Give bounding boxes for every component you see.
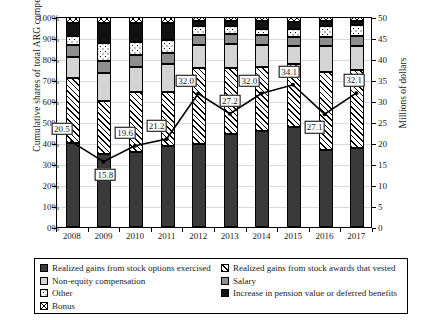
x-axis-tickmark [151, 228, 152, 232]
legend-item-label: Realized gains from stock options exerci… [52, 263, 211, 273]
bar-segment-stock-awards [129, 92, 143, 153]
bar-segment-non-equity [287, 46, 301, 64]
bar-segment-pension [129, 23, 143, 42]
y-axis-left-tickmark [52, 165, 56, 166]
x-axis-tick-2015: 2015 [284, 231, 302, 241]
y-axis-right-tickmark [372, 165, 376, 166]
bar-segment-other [161, 40, 175, 53]
chart-container: Cumulative shares of total ARG compensat… [0, 0, 433, 320]
bar-segment-pension [66, 23, 80, 36]
bar-segment-options [224, 134, 238, 227]
y-axis-right-tickmark [372, 60, 376, 61]
bar-2017 [350, 17, 364, 227]
legend-item-label: Salary [233, 276, 256, 286]
bar-segment-pension [161, 23, 175, 40]
x-axis-tick-2017: 2017 [347, 231, 365, 241]
bar-segment-non-equity [97, 73, 111, 101]
bar-segment-bonus [319, 17, 333, 21]
legend-item-label: Non-equity compensation [52, 276, 145, 286]
y-axis-left-tickmark [52, 144, 56, 145]
chart-legend: Realized gains from stock options exerci… [34, 258, 408, 314]
bar-segment-pension [224, 21, 238, 26]
data-label-2013: 27.2 [219, 95, 240, 108]
x-axis-tickmark [56, 228, 57, 232]
data-label-2011: 21.2 [146, 120, 167, 133]
bar-segment-pension [192, 21, 206, 26]
legend-item: Increase in pension value or deferred be… [221, 287, 397, 300]
bar-segment-bonus [224, 17, 238, 21]
bar-segment-pension [255, 21, 269, 28]
bar-2013 [224, 17, 238, 227]
y-axis-right-tickmark [372, 102, 376, 103]
bar-segment-stock-awards [97, 101, 111, 154]
x-axis-tick-2009: 2009 [94, 231, 112, 241]
bar-2009 [97, 17, 111, 227]
bonus-swatch [40, 302, 48, 310]
bar-2010 [129, 17, 143, 227]
y-axis-right-tickmark [372, 123, 376, 124]
bar-segment-other [287, 29, 301, 37]
bar-segment-other [97, 43, 111, 61]
y-axis-left-tickmark [52, 60, 56, 61]
bar-2012 [192, 17, 206, 227]
x-axis-tickmark [372, 228, 373, 232]
legend-item: Realized gains from stock awards that ve… [221, 262, 397, 275]
y-axis-left-tickmark [52, 207, 56, 208]
bar-segment-non-equity [350, 46, 364, 69]
bar-segment-other [350, 25, 364, 36]
legend-column-left: Realized gains from stock options exerci… [40, 262, 211, 312]
bar-segment-salary [319, 37, 333, 46]
y-axis-right-tick: 15 [378, 160, 408, 170]
bar-segment-stock-awards [319, 72, 333, 151]
y-axis-right-tickmark [372, 207, 376, 208]
other-swatch [40, 289, 48, 297]
bar-segment-options [287, 127, 301, 227]
bar-segment-salary [97, 61, 111, 73]
y-axis-left-tickmark [52, 81, 56, 82]
y-axis-right-tick: 10 [378, 181, 408, 191]
bar-segment-bonus [97, 17, 111, 23]
bar-segment-pension [350, 21, 364, 25]
stockawards-swatch [221, 264, 229, 272]
bar-segment-options [161, 146, 175, 227]
bar-segment-salary [255, 35, 269, 46]
bar-segment-bonus [66, 17, 80, 23]
x-axis-tickmark [309, 228, 310, 232]
bar-segment-bonus [161, 17, 175, 23]
x-axis-tickmark [340, 228, 341, 232]
legend-item: Realized gains from stock options exerci… [40, 262, 211, 275]
bar-segment-non-equity [319, 46, 333, 71]
data-label-2014: 32.0 [239, 74, 260, 87]
x-axis-tick-2008: 2008 [63, 231, 81, 241]
options-swatch [40, 264, 48, 272]
x-axis-tick-2011: 2011 [158, 231, 176, 241]
bar-segment-bonus [255, 17, 269, 21]
bar-segment-options [192, 144, 206, 227]
y-axis-right-tickmark [372, 186, 376, 187]
data-label-2015: 34.1 [279, 66, 300, 79]
x-axis-tickmark [277, 228, 278, 232]
bar-2015 [287, 17, 301, 227]
bar-segment-non-equity [255, 45, 269, 67]
legend-item: Other [40, 287, 211, 300]
legend-item: Bonus [40, 300, 211, 313]
x-axis-tickmark [182, 228, 183, 232]
bar-2014 [255, 17, 269, 227]
y-axis-right-tick: 25 [378, 118, 408, 128]
data-label-2010: 19.6 [115, 126, 136, 139]
y-axis-right-tick: 0 [378, 223, 408, 233]
y-axis-right-tick: 45 [378, 34, 408, 44]
y-axis-right-tickmark [372, 144, 376, 145]
bar-segment-non-equity [129, 67, 143, 91]
y-axis-right-tick: 40 [378, 55, 408, 65]
legend-item: Non-equity compensation [40, 275, 211, 288]
y-axis-left-tickmark [52, 186, 56, 187]
bar-segment-bonus [287, 17, 301, 22]
bar-segment-options [255, 131, 269, 227]
bar-segment-non-equity [192, 45, 206, 68]
x-axis-tickmark [246, 228, 247, 232]
bar-segment-non-equity [224, 44, 238, 68]
legend-item-label: Increase in pension value or deferred be… [233, 288, 397, 298]
y-axis-right-tick: 5 [378, 202, 408, 212]
bar-segment-other [224, 26, 238, 33]
